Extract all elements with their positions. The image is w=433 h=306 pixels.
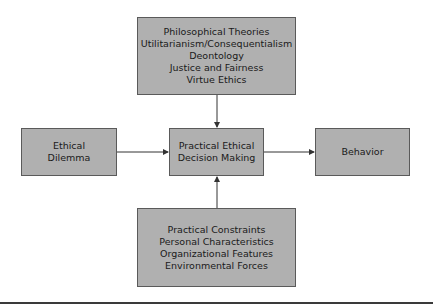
box-line: Deontology <box>189 50 244 62</box>
box-line: Utilitarianism/Consequentialism <box>141 38 292 50</box>
box-line: Justice and Fairness <box>170 62 264 74</box>
box-line: Dilemma <box>48 152 91 164</box>
practical-constraints-box: Practical Constraints Personal Character… <box>137 208 296 287</box>
box-line: Decision Making <box>178 152 256 164</box>
bottom-rule-divider <box>0 302 433 304</box>
box-line: Virtue Ethics <box>186 74 246 86</box>
box-line: Environmental Forces <box>165 260 268 272</box>
box-line: Personal Characteristics <box>159 236 273 248</box>
box-line: Behavior <box>341 146 383 158</box>
practical-ethical-decision-making-box: Practical Ethical Decision Making <box>169 128 264 176</box>
ethical-dilemma-box: Ethical Dilemma <box>21 128 117 176</box>
box-line: Practical Constraints <box>168 224 266 236</box>
box-line: Practical Ethical <box>179 140 255 152</box>
box-line: Philosophical Theories <box>164 26 270 38</box>
behavior-box: Behavior <box>315 128 410 176</box>
box-line: Ethical <box>53 140 85 152</box>
philosophical-theories-box: Philosophical Theories Utilitarianism/Co… <box>137 17 296 95</box>
box-line: Organizational Features <box>160 248 273 260</box>
